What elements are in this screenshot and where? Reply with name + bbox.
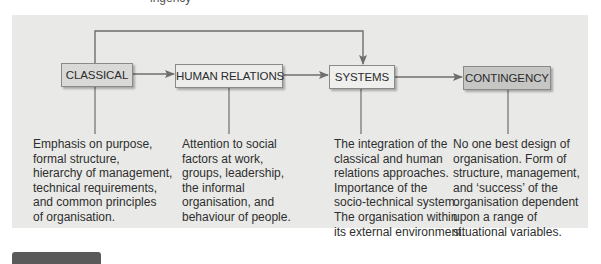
description-line: The integration of the <box>334 137 465 152</box>
description-line: factors at work, <box>182 152 291 167</box>
figure-label-bar <box>12 252 101 264</box>
node-human-relations: HUMAN RELATIONS <box>175 64 283 88</box>
description-systems: The integration of the classical and hum… <box>334 137 465 239</box>
description-line: socio-technical system. <box>334 195 465 210</box>
description-line: Importance of the <box>334 181 465 196</box>
description-line: the informal <box>182 181 291 196</box>
description-line: formal structure, <box>33 152 172 167</box>
description-line: relations approaches. <box>334 166 465 181</box>
description-line: of organisation. <box>33 210 172 225</box>
description-line: organisation dependent <box>453 195 580 210</box>
loop-arrow-classical-to-systems <box>95 31 363 64</box>
node-systems: SYSTEMS <box>329 65 395 89</box>
description-contingency: No one best design of organisation. Form… <box>453 137 580 239</box>
description-human-relations: Attention to social factors at work, gro… <box>182 137 291 225</box>
description-line: No one best design of <box>453 137 580 152</box>
description-line: hierarchy of management, <box>33 166 172 181</box>
description-line: and common principles <box>33 195 172 210</box>
description-line: Attention to social <box>182 137 291 152</box>
description-line: behaviour of people. <box>182 210 291 225</box>
description-line: The organisation within <box>334 210 465 225</box>
description-line: situational variables. <box>453 225 580 240</box>
description-line: classical and human <box>334 152 465 167</box>
description-line: its external environment. <box>334 225 465 240</box>
description-line: Emphasis on purpose, <box>33 137 172 152</box>
description-line: structure, management, <box>453 166 580 181</box>
node-classical: CLASSICAL <box>61 63 133 87</box>
node-contingency: CONTINGENCY <box>463 66 551 90</box>
description-classical: Emphasis on purpose, formal structure, h… <box>33 137 172 225</box>
description-line: and ‘success’ of the <box>453 181 580 196</box>
description-line: upon a range of <box>453 210 580 225</box>
description-line: organisation, and <box>182 195 291 210</box>
description-line: groups, leadership, <box>182 166 291 181</box>
description-line: technical requirements, <box>33 181 172 196</box>
description-line: organisation. Form of <box>453 152 580 167</box>
